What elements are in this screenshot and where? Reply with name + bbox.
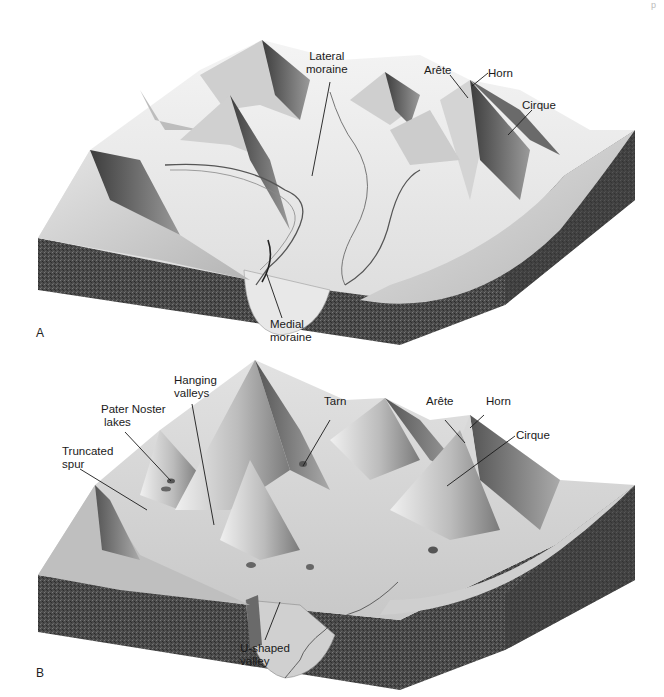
panel-letter-a: A <box>36 326 44 340</box>
block-diagram-b <box>0 360 664 697</box>
small-lake-3 <box>428 547 438 554</box>
label-cirque-a: Cirque <box>522 99 556 112</box>
panel-letter-b: B <box>36 666 44 680</box>
label-tarn: Tarn <box>324 395 346 408</box>
panel-b-postglacial-landscape: Hanging valleys Pater Noster lakes Trunc… <box>0 360 664 697</box>
label-hanging-valleys: Hanging valleys <box>174 374 217 400</box>
small-lake-2 <box>306 564 314 570</box>
panel-a-glaciated-landscape: Lateral moraine Arête Horn Cirque Medial… <box>0 0 664 350</box>
label-arete-b: Arête <box>426 395 454 408</box>
label-truncated-spur: Truncated spur <box>62 445 113 471</box>
label-medial-moraine: Medial moraine <box>270 318 312 344</box>
label-arete-a: Arête <box>424 64 452 77</box>
label-lateral-moraine: Lateral moraine <box>306 50 348 76</box>
pater-noster-lake-2 <box>161 487 171 492</box>
label-pater-noster-lakes: Pater Noster lakes <box>101 403 166 429</box>
label-horn-b: Horn <box>486 395 511 408</box>
small-lake-1 <box>246 562 256 568</box>
label-horn-a: Horn <box>488 67 513 80</box>
label-u-shaped-valley: U-shaped valley <box>240 642 290 668</box>
label-cirque-b: Cirque <box>516 429 550 442</box>
